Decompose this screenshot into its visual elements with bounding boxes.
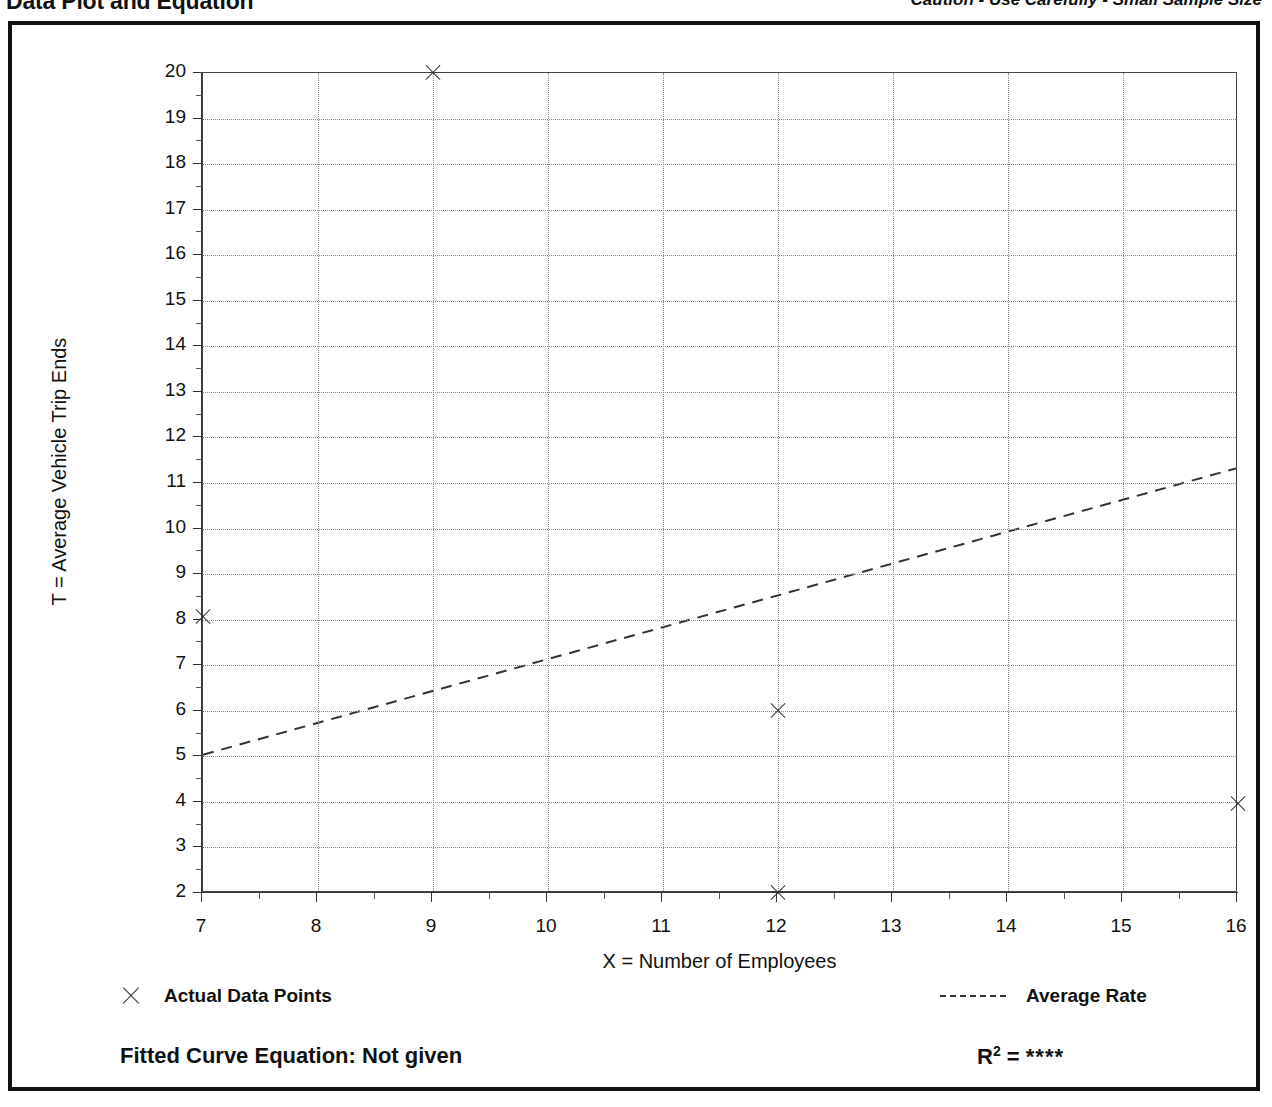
caution-note: Caution - Use Carefully - Small Sample S… — [911, 0, 1262, 10]
y-axis-tick — [193, 801, 202, 802]
gridline-vertical — [893, 73, 894, 891]
y-axis-tick-label: 13 — [144, 379, 186, 401]
y-axis-minor-tick — [196, 186, 202, 187]
x-axis-minor-tick — [949, 893, 950, 899]
x-axis-tick — [431, 893, 432, 902]
gridline-horizontal — [203, 437, 1236, 438]
y-axis: 234567891011121314151617181920 — [201, 72, 202, 894]
page-header: Data Plot and Equation Caution - Use Car… — [0, 0, 1272, 20]
gridline-vertical — [1008, 73, 1009, 891]
x-axis: 78910111213141516 — [201, 892, 1238, 893]
y-axis-minor-tick — [196, 231, 202, 232]
gridline-vertical — [1123, 73, 1124, 891]
gridline-vertical — [548, 73, 549, 891]
x-axis-title: X = Number of Employees — [202, 950, 1237, 973]
legend-item-data-points: Actual Data Points — [120, 985, 332, 1007]
gridline-horizontal — [203, 210, 1236, 211]
x-axis-tick-label: 12 — [751, 915, 801, 937]
r2-exponent: 2 — [993, 1043, 1001, 1059]
y-axis-minor-tick — [196, 824, 202, 825]
page-title: Data Plot and Equation — [6, 0, 253, 15]
y-axis-tick-label: 10 — [144, 516, 186, 538]
x-axis-tick — [201, 893, 202, 902]
y-axis-tick-label: 8 — [144, 607, 186, 629]
y-axis-tick-label: 19 — [144, 106, 186, 128]
y-axis-minor-tick — [196, 95, 202, 96]
gridline-horizontal — [203, 620, 1236, 621]
x-axis-tick-label: 16 — [1211, 915, 1261, 937]
y-axis-tick — [193, 482, 202, 483]
y-axis-tick-label: 11 — [144, 470, 186, 492]
y-axis-tick-label: 3 — [144, 834, 186, 856]
gridline-vertical — [663, 73, 664, 891]
x-axis-tick-label: 10 — [521, 915, 571, 937]
x-axis-tick-label: 14 — [981, 915, 1031, 937]
r2-label: R — [977, 1044, 993, 1069]
x-axis-tick — [1236, 893, 1237, 902]
chart-panel: 234567891011121314151617181920 789101112… — [8, 21, 1260, 1091]
x-axis-tick — [546, 893, 547, 902]
y-axis-tick — [193, 118, 202, 119]
y-axis-tick-label: 9 — [144, 561, 186, 583]
y-axis-tick — [193, 846, 202, 847]
y-axis-minor-tick — [196, 641, 202, 642]
y-axis-minor-tick — [196, 869, 202, 870]
y-axis-tick — [193, 528, 202, 529]
x-axis-minor-tick — [1064, 893, 1065, 899]
gridline-horizontal — [203, 346, 1236, 347]
y-axis-tick-label: 16 — [144, 242, 186, 264]
y-axis-tick — [193, 573, 202, 574]
y-axis-tick — [193, 72, 202, 73]
y-axis-tick-label: 15 — [144, 288, 186, 310]
legend-label-data-points: Actual Data Points — [164, 985, 332, 1007]
gridline-vertical — [778, 73, 779, 891]
y-axis-tick — [193, 619, 202, 620]
y-axis-minor-tick — [196, 505, 202, 506]
x-axis-tick — [776, 893, 777, 902]
gridline-horizontal — [203, 119, 1236, 120]
y-axis-tick-label: 20 — [144, 60, 186, 82]
y-axis-tick-label: 14 — [144, 333, 186, 355]
gridline-horizontal — [203, 847, 1236, 848]
x-axis-tick-label: 9 — [406, 915, 456, 937]
gridline-horizontal — [203, 301, 1236, 302]
x-marker-icon — [120, 985, 142, 1007]
gridline-horizontal — [203, 574, 1236, 575]
r-squared-value: R2 = **** — [977, 1043, 1064, 1070]
y-axis-tick — [193, 391, 202, 392]
y-axis-tick-label: 6 — [144, 698, 186, 720]
x-axis-tick — [661, 893, 662, 902]
gridline-horizontal — [203, 665, 1236, 666]
y-axis-minor-tick — [196, 778, 202, 779]
y-axis-minor-tick — [196, 140, 202, 141]
y-axis-tick — [193, 345, 202, 346]
x-axis-minor-tick — [604, 893, 605, 899]
y-axis-tick — [193, 300, 202, 301]
r2-stars: **** — [1026, 1044, 1064, 1069]
x-axis-tick-label: 8 — [291, 915, 341, 937]
x-axis-minor-tick — [374, 893, 375, 899]
x-axis-tick — [891, 893, 892, 902]
gridline-horizontal — [203, 711, 1236, 712]
y-axis-tick — [193, 209, 202, 210]
y-axis-tick — [193, 436, 202, 437]
gridline-horizontal — [203, 483, 1236, 484]
gridline-horizontal — [203, 164, 1236, 165]
y-axis-minor-tick — [196, 414, 202, 415]
x-axis-tick — [316, 893, 317, 902]
y-axis-minor-tick — [196, 550, 202, 551]
fitted-curve-equation: Fitted Curve Equation: Not given — [120, 1043, 462, 1069]
y-axis-minor-tick — [196, 368, 202, 369]
y-axis-tick-label: 12 — [144, 424, 186, 446]
gridline-horizontal — [203, 529, 1236, 530]
y-axis-minor-tick — [196, 277, 202, 278]
x-axis-minor-tick — [1179, 893, 1180, 899]
plot-area — [202, 72, 1237, 892]
y-axis-minor-tick — [196, 323, 202, 324]
x-axis-tick-label: 15 — [1096, 915, 1146, 937]
x-axis-minor-tick — [259, 893, 260, 899]
x-axis-minor-tick — [719, 893, 720, 899]
y-axis-tick-label: 17 — [144, 197, 186, 219]
x-axis-tick-label: 7 — [176, 915, 226, 937]
y-axis-tick-label: 5 — [144, 743, 186, 765]
